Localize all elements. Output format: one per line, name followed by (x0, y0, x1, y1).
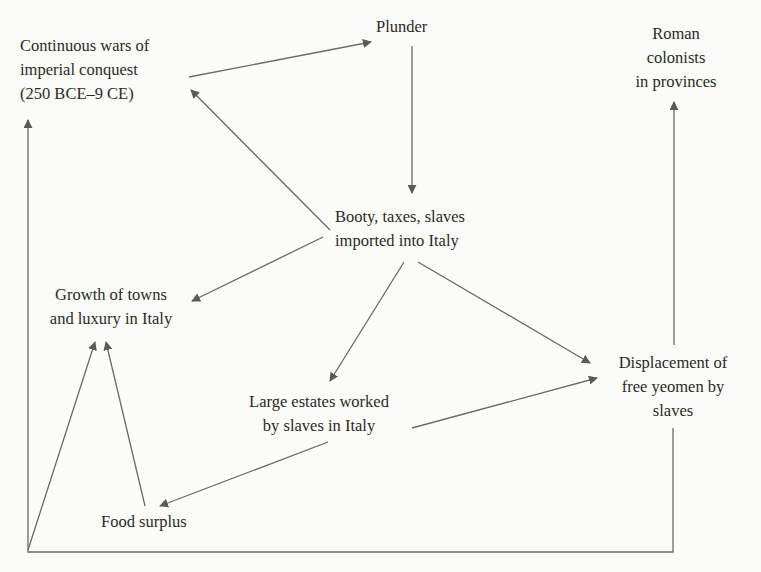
node-displacement-line-3: slaves (604, 399, 742, 423)
node-plunder-line-1: Plunder (376, 15, 427, 39)
node-displacement-line-2: free yeomen by (604, 375, 742, 399)
node-wars-line-2: imperial conquest (20, 58, 149, 82)
arrow-wars-to-plunder (189, 42, 371, 77)
node-towns-line-2: and luxury in Italy (36, 307, 186, 331)
node-colonists-line-2: colonists (620, 46, 732, 70)
arrow-booty-to-wars (191, 90, 330, 230)
node-colonists-line-1: Roman (620, 22, 732, 46)
arrow-booty-to-displacement (418, 262, 590, 363)
node-estates-line-2: by slaves in Italy (230, 414, 408, 438)
diagram-canvas: Continuous wars of imperial conquest (25… (0, 0, 761, 572)
arrow-corner-to-towns (28, 342, 95, 550)
arrow-estates-to-displacement (412, 378, 597, 428)
node-plunder: Plunder (376, 15, 427, 39)
node-displacement-of-yeomen: Displacement of free yeomen by slaves (604, 351, 742, 423)
node-displacement-line-1: Displacement of (604, 351, 742, 375)
node-booty-line-1: Booty, taxes, slaves (335, 205, 465, 229)
node-growth-of-towns: Growth of towns and luxury in Italy (36, 283, 186, 331)
line-bottom-loop (28, 120, 673, 552)
node-wars-line-3: (250 BCE–9 CE) (20, 82, 149, 106)
node-food-line-1: Food surplus (101, 510, 187, 534)
node-estates-line-1: Large estates worked (230, 390, 408, 414)
node-continuous-wars: Continuous wars of imperial conquest (25… (20, 34, 149, 106)
arrow-estates-to-food (160, 442, 328, 506)
node-booty-line-2: imported into Italy (335, 229, 465, 253)
arrow-food-to-towns (106, 342, 145, 506)
node-booty-taxes-slaves: Booty, taxes, slaves imported into Italy (335, 205, 465, 253)
node-food-surplus: Food surplus (101, 510, 187, 534)
arrow-booty-to-towns (192, 237, 323, 301)
node-colonists-line-3: in provinces (620, 70, 732, 94)
node-roman-colonists: Roman colonists in provinces (620, 22, 732, 94)
arrow-booty-to-estates (330, 262, 404, 381)
node-towns-line-1: Growth of towns (36, 283, 186, 307)
node-wars-line-1: Continuous wars of (20, 34, 149, 58)
node-large-estates: Large estates worked by slaves in Italy (230, 390, 408, 438)
